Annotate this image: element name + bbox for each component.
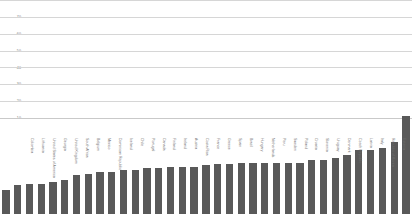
x-axis-tick: Canada xyxy=(157,138,168,212)
x-axis-tick: Finland xyxy=(168,138,179,212)
x-axis-tick-label: Portugal xyxy=(150,138,154,151)
x-axis-tick: Hungary xyxy=(255,138,266,212)
x-axis-tick-label: Italy xyxy=(379,138,383,145)
x-axis-tick-label: Costa Rica xyxy=(204,138,208,156)
x-axis-tick: Georgia xyxy=(59,138,70,212)
x-axis-tick-label: Latvia xyxy=(368,138,372,148)
x-axis-tick-label: Canada xyxy=(161,138,165,151)
x-axis-tick-label: Chile xyxy=(139,138,143,146)
x-axis-tick-label: Austria xyxy=(194,138,198,149)
x-axis-tick-label: Republic of Korea xyxy=(390,138,394,167)
x-axis-tick-label: Croatia xyxy=(314,138,318,150)
x-axis-tick-label: Brazil xyxy=(248,138,252,147)
bar xyxy=(14,185,21,214)
x-axis-tick-label: Estonia xyxy=(401,138,405,150)
x-axis-tick: Croatia xyxy=(310,138,321,212)
x-axis-tick: Lithuania xyxy=(37,138,48,212)
x-axis-tick: Iceland xyxy=(124,138,135,212)
x-axis-tick: Netherlands xyxy=(266,138,277,212)
x-axis-tick: Portugal xyxy=(146,138,157,212)
bar-slot xyxy=(12,0,24,214)
x-axis-tick: Dominican Republic xyxy=(113,138,124,212)
x-axis-tick-label: Belgium xyxy=(95,138,99,151)
x-axis-tick-label: Colombia xyxy=(30,138,34,153)
x-axis-tick-label: Slovenia xyxy=(325,138,329,152)
x-axis-tick-label: South Africa xyxy=(84,138,88,157)
x-axis-tick-label: Denmark xyxy=(346,138,350,153)
x-axis-tick: Brazil xyxy=(244,138,255,212)
x-axis-tick-label: Uruguay xyxy=(336,138,340,152)
x-axis-tick-label: Sweden xyxy=(292,138,296,151)
x-axis-tick: Denmark xyxy=(343,138,354,212)
x-axis-tick: Costa Rica xyxy=(201,138,212,212)
x-axis-tick: Slovenia xyxy=(321,138,332,212)
x-axis-tick: Greece xyxy=(223,138,234,212)
x-axis-tick: Austria xyxy=(190,138,201,212)
x-axis-tick-label: Poland xyxy=(303,138,307,149)
x-axis-tick-label: Iceland xyxy=(128,138,132,150)
x-axis-tick-label: Hungary xyxy=(259,138,263,152)
x-axis-tick-label: Mexico xyxy=(106,138,110,149)
bar-chart: 70605040302010 ColombiaLithuaniaUnited S… xyxy=(0,0,412,214)
x-axis-tick-label: Spain xyxy=(237,138,241,147)
x-axis-tick: Czech Republic xyxy=(354,138,365,212)
x-axis-tick: Chile xyxy=(135,138,146,212)
x-axis-tick-label: United States of America xyxy=(52,138,56,178)
x-axis-tick: Peru xyxy=(277,138,288,212)
x-axis-tick: Belgium xyxy=(92,138,103,212)
x-axis-tick-label: United Kingdom xyxy=(73,138,77,164)
x-axis-tick-label: Finland xyxy=(172,138,176,150)
x-axis-tick: United Kingdom xyxy=(70,138,81,212)
x-axis-tick-label: Lithuania xyxy=(41,138,45,153)
x-axis-tick: France xyxy=(212,138,223,212)
x-axis-tick-label: Czech Republic xyxy=(357,138,361,163)
x-axis-tick-label: Georgia xyxy=(62,138,66,151)
x-axis-tick-label: Netherlands xyxy=(270,138,274,157)
x-axis-tick: South Africa xyxy=(81,138,92,212)
x-axis: ColombiaLithuaniaUnited States of Americ… xyxy=(26,138,408,212)
x-axis-tick: Spain xyxy=(234,138,245,212)
x-axis-tick-label: France xyxy=(215,138,219,149)
x-axis-tick: Poland xyxy=(299,138,310,212)
x-axis-tick: Italy xyxy=(376,138,387,212)
x-axis-tick: Republic of Korea xyxy=(386,138,397,212)
x-axis-tick: Mexico xyxy=(102,138,113,212)
x-axis-tick-label: Dominican Republic xyxy=(117,138,121,170)
x-axis-tick: Sweden xyxy=(288,138,299,212)
x-axis-tick-label: Greece xyxy=(226,138,230,150)
x-axis-tick-label: Ireland xyxy=(183,138,187,149)
bar-slot xyxy=(0,0,12,214)
bar xyxy=(2,190,9,214)
x-axis-tick: United States of America xyxy=(48,138,59,212)
x-axis-tick: Estonia xyxy=(397,138,408,212)
x-axis-tick: Colombia xyxy=(26,138,37,212)
x-axis-tick: Uruguay xyxy=(332,138,343,212)
x-axis-tick: Latvia xyxy=(365,138,376,212)
x-axis-tick-label: Peru xyxy=(281,138,285,146)
x-axis-tick: Ireland xyxy=(179,138,190,212)
